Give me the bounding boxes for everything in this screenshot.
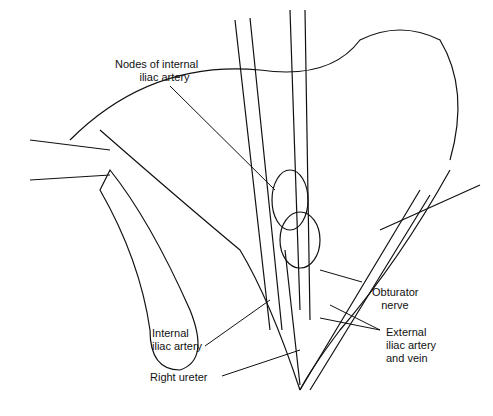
label-nodes-internal-iliac: Nodes of internal iliac artery: [115, 58, 198, 84]
label-obturator-nerve: Obturator nerve: [372, 286, 418, 312]
label-external-iliac: External iliac artery and vein: [386, 326, 436, 365]
ureter: [285, 250, 300, 385]
label-internal-iliac-artery: Internal iliac artery: [152, 327, 202, 353]
label-right-ureter: Right ureter: [150, 371, 207, 384]
